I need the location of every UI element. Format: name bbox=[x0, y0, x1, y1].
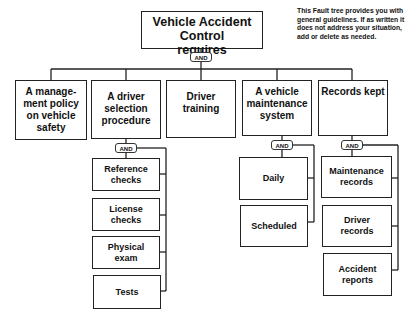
license-checks-box: License checks bbox=[92, 198, 160, 231]
scheduled-box: Scheduled bbox=[240, 205, 308, 247]
tests-box: Tests bbox=[93, 275, 161, 309]
top-event-box: Vehicle Accident Control requires bbox=[141, 11, 263, 49]
training-box: Driver training bbox=[166, 80, 236, 138]
reference-checks-box: Reference checks bbox=[92, 158, 160, 191]
and-gate-records: AND bbox=[341, 140, 363, 150]
accident-reports-box: Accident reports bbox=[323, 253, 392, 296]
daily-box: Daily bbox=[239, 157, 308, 200]
and-gate-selection: AND bbox=[115, 143, 137, 153]
records-box: Records kept bbox=[318, 80, 388, 136]
driver-records-box: Driver records bbox=[322, 205, 392, 247]
top-event-line2: Control bbox=[153, 29, 252, 43]
maintenance-records-box: Maintenance records bbox=[321, 156, 392, 198]
physical-exam-box: Physical exam bbox=[92, 236, 160, 269]
maintenance-box: A vehicle maintenance system bbox=[242, 80, 312, 136]
and-gate-top: AND bbox=[190, 52, 212, 62]
selection-box: A driver selection procedure bbox=[91, 80, 161, 139]
policy-box: A manage-ment policy on vehicle safety bbox=[15, 80, 87, 140]
top-event-line1: Vehicle Accident bbox=[153, 15, 252, 29]
guidance-note: This Fault tree provides you with genera… bbox=[297, 7, 411, 41]
and-gate-maintenance: AND bbox=[271, 140, 293, 150]
